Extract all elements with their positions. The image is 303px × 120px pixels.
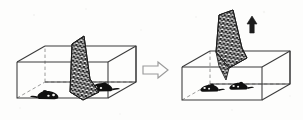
figure-background <box>0 0 303 120</box>
figure-canvas <box>0 0 303 120</box>
figure-root: Mesh barrier cage diagram Barrier lowere… <box>0 0 303 120</box>
